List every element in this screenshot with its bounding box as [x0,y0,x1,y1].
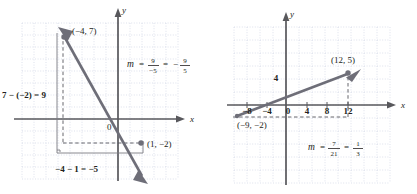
left-graph-svg: x y 0 (−4, 7) (1, −2) 7 − (−2) = 9 −4 − … [0,0,208,194]
left-line [58,27,148,184]
left-point-a-label: (−4, 7) [72,26,97,36]
left-rise-label: 7 − (−2) = 9 [2,90,46,100]
right-frac2-denominator: 3 [356,150,360,158]
right-frac2-numerator: 1 [356,140,360,148]
left-frac2-numerator: 9 [183,57,187,65]
left-point-a-marker [61,34,66,39]
right-x-tick-12: 12 [344,106,354,116]
left-eq-sign-1: = [139,59,144,69]
left-frac2-denominator: 5 [183,67,187,75]
left-graph-panel: x y 0 (−4, 7) (1, −2) 7 − (−2) = 9 −4 − … [0,0,208,194]
right-frac1-numerator: 7 [332,140,336,148]
left-frac1-numerator: 9 [151,57,155,65]
right-x-tick-4: 4 [305,106,310,116]
left-slope-equation: m = 9 −5 = − 9 5 [127,57,190,75]
right-y-axis-label: y [289,9,294,19]
right-graph-panel: x y 4 −8 −4 0 4 8 12 (12, 5) (−9, −2) m … [209,0,417,194]
left-frac1-denominator: −5 [149,67,157,75]
left-eq-sign-2: = [163,59,168,69]
right-x-tick-m8: −8 [242,106,252,116]
right-x-axis [227,102,396,109]
right-slope-equation: m = 7 21 = 1 3 [308,140,363,158]
left-point-b-label: (1, −2) [147,139,172,149]
right-slope-m: m [308,142,315,152]
right-line [237,69,361,116]
left-minus-sign: − [173,59,178,69]
left-y-axis-label: y [121,5,126,15]
right-x-tick-8: 8 [325,106,330,116]
right-y-tick-4: 4 [274,73,279,83]
right-frac1-denominator: 21 [331,150,339,158]
right-graph-svg: x y 4 −8 −4 0 4 8 12 (12, 5) (−9, −2) m … [209,0,417,194]
right-x-tick-m4: −4 [262,106,272,116]
left-origin-label: 0 [107,122,112,132]
left-run-label: −4 − 1 = −5 [55,164,99,174]
right-x-axis-label: x [400,100,405,110]
left-x-axis [14,116,185,123]
right-point-b-marker [235,114,239,118]
right-eq-sign-1: = [320,142,325,152]
left-x-axis-label: x [189,114,194,124]
right-point-b-label: (−9, −2) [237,120,267,130]
left-slope-m: m [127,59,134,69]
right-eq-sign-2: = [344,142,349,152]
right-origin-label: 0 [286,106,291,116]
left-point-b-marker [138,140,143,145]
right-point-a-label: (12, 5) [331,55,355,65]
right-point-a-marker [345,70,350,75]
slope-figure: x y 0 (−4, 7) (1, −2) 7 − (−2) = 9 −4 − … [0,0,417,194]
